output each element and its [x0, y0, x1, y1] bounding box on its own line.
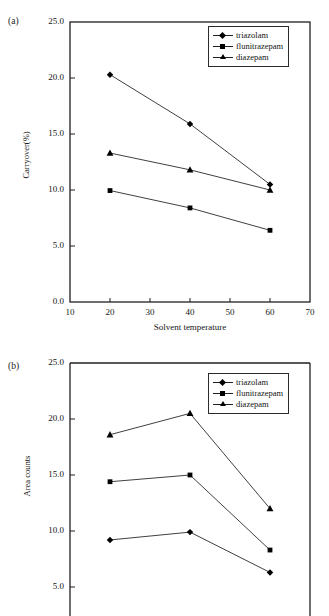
- legend-item-flunitrazepam: flunitrazepam: [213, 388, 283, 399]
- square-marker-icon: [213, 42, 233, 52]
- legend-item-diazepam: diazepam: [213, 52, 283, 63]
- legend-item-flunitrazepam: flunitrazepam: [213, 41, 283, 52]
- figure-panel-a: (a) Carryover(%) 0.05.010.015.020.025.0 …: [0, 0, 329, 345]
- diamond-marker-icon: [213, 378, 233, 388]
- legend-b: triazolamflunitrazepamdiazepam: [208, 373, 289, 414]
- legend-item-triazolam: triazolam: [213, 377, 283, 388]
- legend-label: flunitrazepam: [236, 388, 283, 399]
- diamond-marker-icon: [213, 31, 233, 41]
- legend-label: diazepam: [236, 399, 269, 410]
- square-marker-icon: [213, 389, 233, 399]
- legend-a: triazolamflunitrazepamdiazepam: [208, 26, 289, 67]
- legend-item-diazepam: diazepam: [213, 399, 283, 410]
- triangle-marker-icon: [213, 400, 233, 410]
- legend-label: triazolam: [236, 377, 268, 388]
- triangle-marker-icon: [213, 53, 233, 63]
- legend-label: diazepam: [236, 52, 269, 63]
- legend-label: flunitrazepam: [236, 41, 283, 52]
- x-axis-title-a: Solvent temperature: [90, 322, 290, 332]
- legend-item-triazolam: triazolam: [213, 30, 283, 41]
- figure-page: { "page": { "background": "#ffffff", "in…: [0, 0, 329, 616]
- figure-panel-b: (b) Area counts 5.010.015.020.025.0 tria…: [0, 345, 329, 616]
- legend-label: triazolam: [236, 30, 268, 41]
